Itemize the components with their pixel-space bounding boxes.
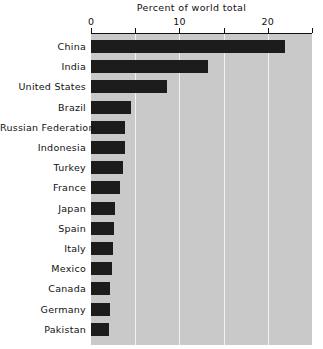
y-label-india: India (0, 60, 86, 73)
x-axis-tick-20 (268, 28, 269, 33)
y-label-united-states: United States (0, 80, 86, 93)
bar-canada (91, 282, 110, 295)
y-label-mexico: Mexico (0, 262, 86, 275)
x-axis-tick-10 (179, 28, 180, 33)
bar-italy (91, 242, 113, 255)
x-axis-tick-5 (135, 28, 136, 33)
x-axis-tick-0 (91, 28, 92, 33)
bar-india (91, 60, 208, 73)
y-label-canada: Canada (0, 282, 86, 295)
y-label-japan: Japan (0, 202, 86, 215)
y-label-china: China (0, 40, 86, 53)
x-tick-label-20: 20 (262, 16, 275, 27)
bar-turkey (91, 161, 123, 174)
x-tick-label-10: 10 (173, 16, 186, 27)
x-axis-tick-25 (312, 28, 313, 33)
y-label-france: France (0, 181, 86, 194)
bar-united-states (91, 80, 167, 93)
x-axis-tick-15 (224, 28, 225, 33)
y-label-italy: Italy (0, 242, 86, 255)
bar-france (91, 181, 120, 194)
bar-japan (91, 202, 115, 215)
chart-title: Percent of world total (0, 2, 323, 13)
bar-russian-federation (91, 121, 125, 134)
gridline-10 (179, 34, 180, 345)
y-label-turkey: Turkey (0, 161, 86, 174)
bar-germany (91, 303, 110, 316)
y-label-indonesia: Indonesia (0, 141, 86, 154)
y-label-spain: Spain (0, 222, 86, 235)
bar-china (91, 40, 285, 53)
gridline-15 (224, 34, 225, 345)
bar-indonesia (91, 141, 125, 154)
x-axis-tick-labels: 01020 (0, 16, 323, 28)
gridline-20 (268, 34, 269, 345)
bar-spain (91, 222, 114, 235)
y-axis-category-labels: ChinaIndiaUnited StatesBrazilRussian Fed… (0, 34, 86, 345)
plot-area (91, 34, 312, 345)
bar-chart-figure: Percent of world total 01020 ChinaIndiaU… (0, 0, 323, 349)
bar-brazil (91, 101, 131, 114)
y-label-russian-federation: Russian Federation (0, 121, 86, 134)
y-label-brazil: Brazil (0, 101, 86, 114)
x-tick-label-0: 0 (88, 16, 94, 27)
y-label-pakistan: Pakistan (0, 323, 86, 336)
bar-pakistan (91, 323, 109, 336)
bar-mexico (91, 262, 112, 275)
y-label-germany: Germany (0, 303, 86, 316)
